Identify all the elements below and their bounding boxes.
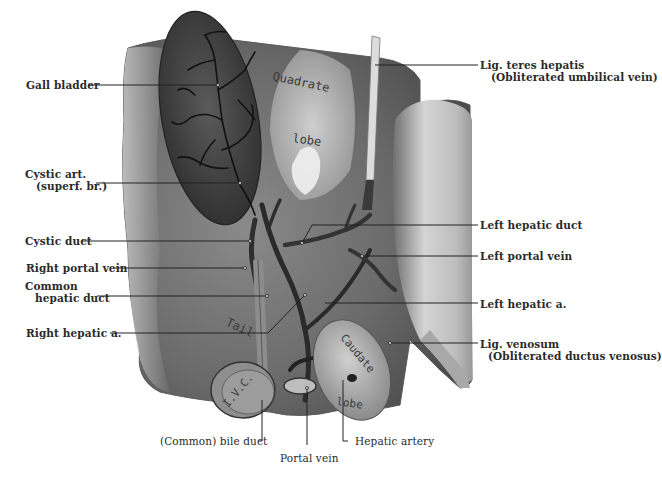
label-left-portal-vein: Left portal vein xyxy=(480,250,572,262)
label-left-hepatic-duct: Left hepatic duct xyxy=(480,219,582,231)
label-gall-bladder: Gall bladder xyxy=(26,79,100,91)
label-portal-vein: Portal vein xyxy=(280,452,339,464)
label-lig-teres: Lig. teres hepatis(Obliterated umbilical… xyxy=(480,59,658,83)
label-hepatic-artery: Hepatic artery xyxy=(355,435,434,447)
label-lig-venosum: Lig. venosum(Obliterated ductus venosus) xyxy=(480,338,662,362)
label-right-portal-vein: Right portal vein xyxy=(26,262,127,274)
label-common-hepatic-duct: Commonhepatic duct xyxy=(25,280,110,304)
label-right-hepatic-a: Right hepatic a. xyxy=(26,327,122,339)
label-left-hepatic-a: Left hepatic a. xyxy=(480,298,566,310)
label-cystic-duct: Cystic duct xyxy=(25,235,92,247)
label-common-bile-duct: (Common) bile duct xyxy=(160,435,267,447)
label-cystic-art: Cystic art.(superf. br.) xyxy=(25,168,107,192)
portal-vein-cut xyxy=(284,378,316,394)
